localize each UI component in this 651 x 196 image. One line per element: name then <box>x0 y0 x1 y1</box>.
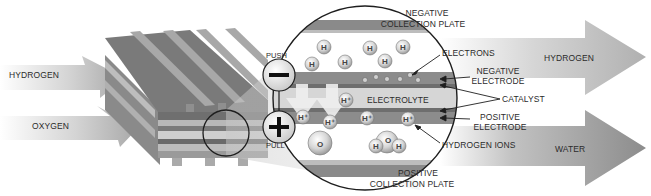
hydrogen-atom: H <box>396 40 410 54</box>
positive-collection-plate-label-2: COLLECTION PLATE <box>370 179 455 189</box>
hydrogen-atom: H <box>317 40 331 54</box>
svg-text:O: O <box>317 140 323 149</box>
hydrogen-ion: H⁺ <box>401 112 415 126</box>
electrons-label: ELECTRONS <box>442 48 495 58</box>
svg-text:H: H <box>321 43 327 52</box>
svg-text:H: H <box>400 43 406 52</box>
negative-electrode-label-1: NEGATIVE <box>476 66 519 76</box>
svg-text:H: H <box>367 44 373 53</box>
positive-collection-plate-label-1: POSITIVE <box>398 168 438 178</box>
svg-text:H⁺: H⁺ <box>341 96 351 105</box>
hydrogen-atom: H <box>363 41 377 55</box>
positive-electrode-label-2: ELECTRODE <box>474 122 527 132</box>
input-hydrogen-label: HYDROGEN <box>9 70 59 80</box>
output-hydrogen-label: HYDROGEN <box>544 53 594 63</box>
negative-collection-plate-label-2: COLLECTION PLATE <box>381 19 466 29</box>
catalyst-label: CATALYST <box>502 94 545 104</box>
svg-text:H⁺: H⁺ <box>325 118 335 127</box>
hydrogen-ion: H⁺ <box>339 93 353 107</box>
fuel-cell-diagram: H H H H H H H⁺ H⁺ H⁺ H⁺ H⁺ O H O H PUSH … <box>0 0 651 196</box>
positive-electrode-label-1: POSITIVE <box>480 112 520 122</box>
svg-text:H⁺: H⁺ <box>362 114 372 123</box>
oxygen-atom: O <box>308 131 332 155</box>
svg-text:O: O <box>385 136 391 145</box>
hydrogen-atom: H <box>305 57 319 71</box>
svg-text:H⁺: H⁺ <box>403 115 413 124</box>
output-water-label: WATER <box>555 144 585 154</box>
hydrogen-ions-label: HYDROGEN IONS <box>442 140 516 150</box>
svg-text:H: H <box>382 57 388 66</box>
hydrogen-ion: H⁺ <box>360 111 374 125</box>
svg-text:H: H <box>342 58 348 67</box>
push-label: PUSH <box>266 51 287 60</box>
positive-terminal <box>263 111 295 143</box>
input-oxygen-label: OXYGEN <box>32 121 69 131</box>
negative-electrode-label-2: ELECTRODE <box>472 76 525 86</box>
electrolyte-label: ELECTROLYTE <box>367 95 429 105</box>
negative-collection-plate-label-1: NEGATIVE <box>405 8 448 18</box>
hydrogen-ion: H⁺ <box>296 110 310 124</box>
pull-label: PULL <box>266 141 285 150</box>
negative-terminal <box>263 59 295 91</box>
hydrogen-ion: H⁺ <box>323 115 337 129</box>
svg-text:H: H <box>309 60 315 69</box>
hydrogen-atom: H <box>338 55 352 69</box>
hydrogen-atom: H <box>378 54 392 68</box>
svg-text:H⁺: H⁺ <box>298 113 308 122</box>
svg-text:H: H <box>373 142 379 151</box>
svg-text:H: H <box>396 142 402 151</box>
